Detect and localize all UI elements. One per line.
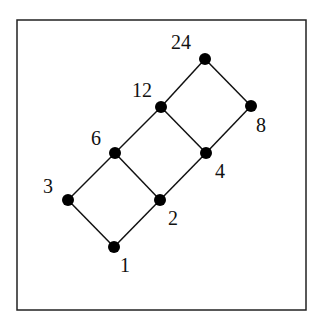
node-label-1: 1 (120, 254, 130, 276)
node-label-24: 24 (171, 31, 191, 53)
edge-6-12 (115, 107, 161, 153)
node-label-12: 12 (132, 79, 152, 101)
node-label-2: 2 (168, 207, 178, 229)
edge-4-8 (206, 106, 251, 153)
node-6 (109, 147, 121, 159)
labels: 2412864321 (43, 31, 266, 276)
hasse-diagram: 2412864321 (0, 0, 322, 325)
node-label-3: 3 (43, 175, 53, 197)
node-24 (199, 53, 211, 65)
diagram-frame (17, 20, 306, 310)
node-12 (155, 101, 167, 113)
edge-4-12 (161, 107, 206, 153)
edge-1-3 (68, 200, 114, 247)
node-8 (245, 100, 257, 112)
edges (68, 59, 251, 247)
node-label-4: 4 (215, 160, 225, 182)
node-1 (108, 241, 120, 253)
edge-1-2 (114, 200, 160, 247)
node-3 (62, 194, 74, 206)
edge-8-24 (205, 59, 251, 106)
node-2 (154, 194, 166, 206)
edge-3-6 (68, 153, 115, 200)
edge-2-4 (160, 153, 206, 200)
edge-12-24 (161, 59, 205, 107)
node-label-6: 6 (91, 127, 101, 149)
edge-2-6 (115, 153, 160, 200)
node-4 (200, 147, 212, 159)
node-label-8: 8 (256, 114, 266, 136)
